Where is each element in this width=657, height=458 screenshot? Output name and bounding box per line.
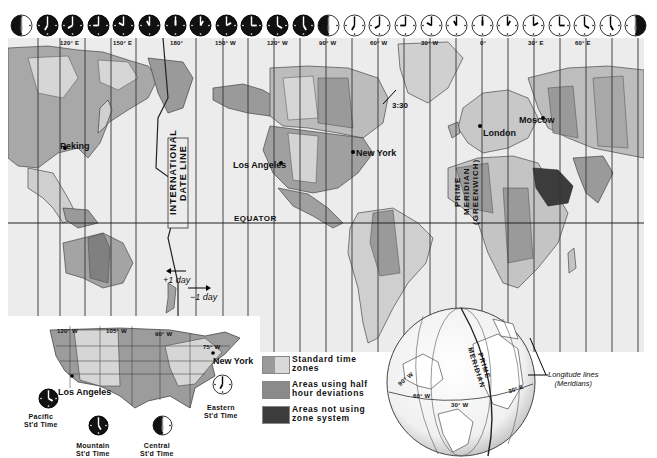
- clock-icon: [61, 14, 84, 37]
- globe-inset: PRIME MERIDIAN 90° W 60° W 30° W 30° E: [383, 304, 539, 458]
- clock-icon: [471, 14, 494, 37]
- clock-icon: [573, 14, 596, 37]
- clock-icon: [36, 14, 59, 37]
- prime-meridian-line3: (GREENWICH): [471, 159, 480, 225]
- usa-inset: 120° W 105° W 90° W 75° W Los Angeles Ne…: [0, 316, 260, 458]
- longitude-label: 90° W: [319, 40, 336, 46]
- clock-icon: [445, 14, 468, 37]
- clock-icon: [496, 14, 519, 37]
- clock-icon: [420, 14, 443, 37]
- equator-label: EQUATOR: [234, 214, 277, 223]
- globe-lon-label: 30° W: [451, 402, 468, 408]
- legend-swatch-standard: [262, 356, 290, 374]
- time-zone-clock-label: PacificSt'd Time: [24, 413, 58, 429]
- longitude-label: 120° E: [60, 40, 79, 46]
- longitude-note-line2: (Meridians): [548, 379, 598, 388]
- clock-icon: [240, 14, 263, 37]
- usa-lon-label: 105° W: [106, 328, 127, 334]
- world-map: [8, 38, 644, 352]
- time-zone-clock-icon: [152, 415, 173, 440]
- plus-one-day-label: +1 day: [163, 275, 190, 285]
- clock-icon: [87, 14, 110, 37]
- city-dot-icon: [478, 124, 482, 128]
- clock-icon: [394, 14, 417, 37]
- time-zone-clock-icon: [38, 388, 59, 413]
- date-line-label-line1: INTERNATIONAL: [168, 129, 178, 215]
- legend-label: Areas using halfhour deviations: [292, 380, 368, 398]
- longitude-note-line1: Longitude lines: [548, 370, 598, 379]
- time-zone-clock-label: MountainSt'd Time: [76, 442, 110, 458]
- legend-label: Areas not usingzone system: [292, 405, 365, 423]
- city-label: New York: [356, 148, 396, 158]
- globe-lon-label: 60° W: [413, 393, 430, 399]
- longitude-label: 60° W: [370, 40, 387, 46]
- clock-icon: [548, 14, 571, 37]
- longitude-label: 150° W: [215, 40, 236, 46]
- clock-icon: [215, 14, 238, 37]
- clock-icon: [343, 14, 366, 37]
- clock-icon: [189, 14, 212, 37]
- longitude-label: 180°: [170, 40, 183, 46]
- clock-icon: [368, 14, 391, 37]
- longitude-label: 0°: [480, 40, 486, 46]
- time-zone-clock-label: EasternSt'd Time: [204, 404, 238, 420]
- time-zone-clock-label: CentralSt'd Time: [140, 442, 174, 458]
- city-label: Peking: [60, 141, 90, 151]
- city-label: Los Angeles: [233, 160, 286, 170]
- prime-meridian-line2: MERIDIAN: [462, 159, 471, 225]
- clock-icon: [522, 14, 545, 37]
- clock-icon: [138, 14, 161, 37]
- legend-item-half-hour: Areas using halfhour deviations: [262, 381, 402, 405]
- legend-swatch-half-hour: [262, 381, 290, 399]
- usa-city-los-angeles: Los Angeles: [58, 388, 111, 397]
- prime-meridian-label: PRIME MERIDIAN (GREENWICH): [453, 159, 480, 225]
- city-label: Moscow: [519, 115, 555, 125]
- time-zone-clock-icon: [88, 415, 109, 440]
- legend-item-no-zone: Areas not usingzone system: [262, 406, 402, 430]
- half-hour-note: 3:30: [392, 101, 408, 110]
- date-line-label: INTERNATIONAL DATE LINE: [168, 129, 188, 215]
- clock-icon: [266, 14, 289, 37]
- minus-one-day-label: −1 day: [190, 292, 217, 302]
- clock-icon: [112, 14, 135, 37]
- city-dot-icon: [351, 150, 355, 154]
- longitude-label: 150° E: [113, 40, 132, 46]
- longitude-label: 60° E: [575, 40, 591, 46]
- clock-icon: [317, 14, 340, 37]
- clock-icon: [599, 14, 622, 37]
- city-label: London: [483, 128, 516, 138]
- usa-lon-label: 90° W: [155, 331, 172, 337]
- longitude-label: 30° W: [421, 40, 438, 46]
- clock-icon: [10, 14, 33, 37]
- usa-lon-label: 120° W: [57, 328, 78, 334]
- longitude-label: 120° W: [267, 40, 288, 46]
- clock-icon: [164, 14, 187, 37]
- date-line-label-line2: DATE LINE: [178, 129, 188, 215]
- prime-meridian-line1: PRIME: [453, 159, 462, 225]
- longitude-note: Longitude lines (Meridians): [548, 370, 598, 388]
- longitude-label: 30° E: [528, 40, 544, 46]
- legend-label: Standard timezones: [292, 355, 356, 373]
- legend-item-standard: Standard timezones: [262, 356, 402, 380]
- time-zone-map-page: 120° E150° E180°150° W120° W90° W60° W30…: [0, 0, 657, 458]
- time-zone-clock-icon: [212, 374, 233, 399]
- clock-icon: [624, 14, 647, 37]
- clock-row: [10, 14, 650, 40]
- usa-city-new-york: New York: [213, 356, 253, 366]
- legend-swatch-no-zone: [262, 406, 290, 424]
- clock-icon: [292, 14, 315, 37]
- map-drawing: [8, 38, 644, 352]
- usa-lon-label: 75° W: [203, 344, 220, 350]
